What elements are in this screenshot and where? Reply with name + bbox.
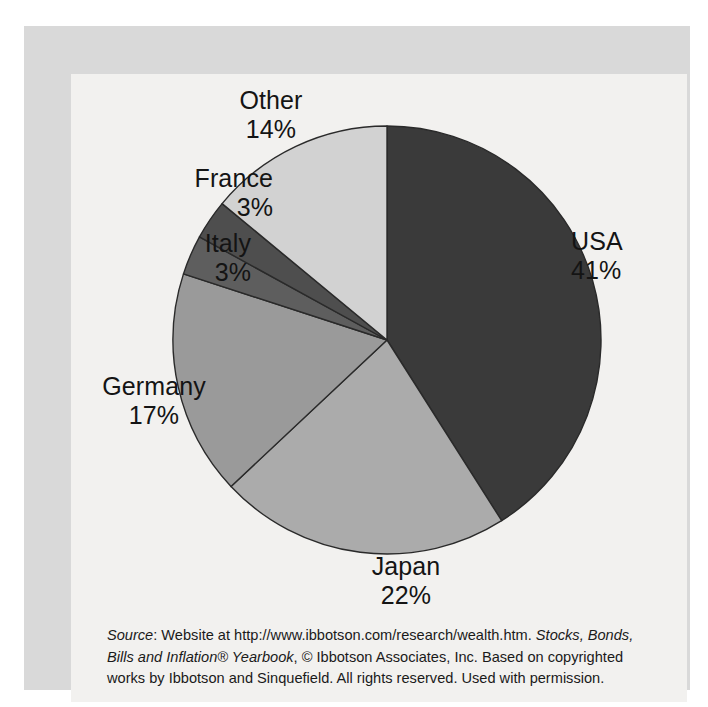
figure-panel: Other 14% France 3% Italy 3% Germany 17%… <box>71 74 687 702</box>
pie-label-germany: Germany 17% <box>71 372 249 430</box>
pie-label-france: France 3% <box>91 164 273 222</box>
pie-label-usa-name: USA <box>571 227 681 256</box>
pie-label-italy: Italy 3% <box>91 229 251 287</box>
pie-label-germany-name: Germany <box>71 372 249 401</box>
pie-label-other-value: 14% <box>176 115 366 144</box>
pie-label-japan: Japan 22% <box>311 552 501 610</box>
figure-page: Other 14% France 3% Italy 3% Germany 17%… <box>0 0 708 707</box>
source-note-title-part2: Bills and Inflation® Yearbook <box>107 649 294 665</box>
pie-label-japan-name: Japan <box>311 552 501 581</box>
pie-label-other-name: Other <box>176 86 366 115</box>
pie-chart: Other 14% France 3% Italy 3% Germany 17%… <box>71 74 687 619</box>
pie-label-usa: USA 41% <box>571 227 681 285</box>
figure-mat-border: Other 14% France 3% Italy 3% Germany 17%… <box>24 26 690 690</box>
pie-chart-svg <box>71 74 687 619</box>
pie-label-france-name: France <box>91 164 273 193</box>
pie-label-italy-name: Italy <box>91 229 251 258</box>
pie-label-other: Other 14% <box>176 86 366 144</box>
source-note-title-part1: Stocks, Bonds, <box>536 627 633 643</box>
pie-label-usa-value: 41% <box>571 256 681 285</box>
pie-label-japan-value: 22% <box>311 581 501 610</box>
pie-label-france-value: 3% <box>91 193 273 222</box>
source-note-url-text: : Website at http://www.ibbotson.com/res… <box>153 627 536 643</box>
pie-label-germany-value: 17% <box>71 401 249 430</box>
source-note-lead: Source <box>107 627 153 643</box>
source-note: Source: Website at http://www.ibbotson.c… <box>107 625 663 690</box>
pie-label-italy-value: 3% <box>91 258 251 287</box>
